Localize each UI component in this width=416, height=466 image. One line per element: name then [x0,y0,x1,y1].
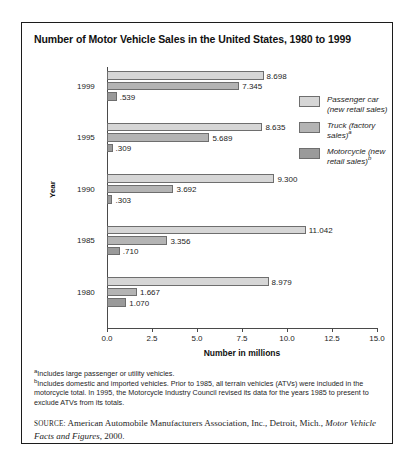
figure-panel: Number of Motor Vehicle Sales in the Uni… [21,22,393,444]
bar-value-label: .710 [123,247,139,256]
bar [107,92,117,101]
x-tick [242,328,243,332]
bar-value-label: 1.070 [129,299,149,308]
bar-value-label: 8.979 [272,278,292,287]
footnote-a-text: Includes large passenger or utility vehi… [37,369,174,378]
bar-value-label: 3.692 [176,185,196,194]
legend-label-line2: (new retail sales) [327,105,387,115]
x-axis-title: Number in millions [107,348,377,358]
x-tick [107,328,108,332]
bar [107,133,209,142]
legend-label: Motorcycle (newretail sales)b [327,147,385,166]
legend-footnote-marker: a [348,129,351,135]
footnote-b: bIncludes domestic and imported vehicles… [34,379,382,408]
y-axis-category-label: 1995 [77,133,95,142]
x-tick [332,328,333,332]
y-axis-title: Year [48,181,57,198]
x-tick-label: 2.5 [146,334,157,343]
source-text: American Automobile Manufacturers Associ… [66,418,325,428]
bar-value-label: 8.635 [265,123,285,132]
x-tick-label: 7.5 [236,334,247,343]
legend-swatch [299,96,320,107]
bar [107,185,173,194]
bar [107,288,137,297]
bar [107,123,262,132]
legend-label: Truck (factorysales)a [327,121,375,140]
legend-swatch [299,148,320,159]
x-tick [377,328,378,332]
footnotes: aIncludes large passenger or utility veh… [34,369,382,442]
source-year: , 2000. [100,431,125,441]
y-axis-category-label: 1985 [77,236,95,245]
legend-label-line1: Passenger car [327,95,387,105]
bar [107,298,126,307]
bar [107,174,274,183]
footnote-b-text: Includes domestic and imported vehicles.… [34,379,369,407]
bar [107,195,112,204]
bar-value-label: .539 [120,93,136,102]
x-tick-label: 0.0 [101,334,112,343]
bar [107,71,264,80]
y-axis-category-label: 1980 [77,287,95,296]
bar-value-label: 3.356 [170,237,190,246]
legend-label-line2: retail sales)b [327,157,385,167]
source-line: SOURCE: American Automobile Manufacturer… [34,417,382,442]
legend-swatch [299,122,320,133]
bar-value-label: 9.300 [277,175,297,184]
footnote-a: aIncludes large passenger or utility veh… [34,369,382,379]
bar-value-label: .303 [115,196,131,205]
bar-value-label: 7.345 [242,82,262,91]
bar [107,144,113,153]
bar [107,277,269,286]
x-tick [152,328,153,332]
x-tick-label: 12.5 [324,334,340,343]
bar [107,226,306,235]
legend-item: Passenger car(new retail sales) [299,95,394,114]
y-axis-category-label: 1990 [77,184,95,193]
bar-value-label: 1.667 [140,288,160,297]
legend-item: Truck (factorysales)a [299,121,394,140]
x-tick [197,328,198,332]
x-tick [287,328,288,332]
bar-value-label: 8.698 [267,72,287,81]
x-tick-label: 10.0 [279,334,295,343]
source-label: SOURCE: [34,420,66,428]
bar [107,247,120,256]
bar-value-label: .309 [116,144,132,153]
legend-label-line1: Motorcycle (new [327,147,385,157]
legend-item: Motorcycle (newretail sales)b [299,147,394,166]
y-axis-category-label: 1999 [77,81,95,90]
x-tick-label: 15.0 [369,334,385,343]
legend-label-line2: sales)a [327,131,375,141]
bar [107,82,239,91]
legend-label: Passenger car(new retail sales) [327,95,387,114]
bar-value-label: 11.042 [309,226,333,235]
bar-value-label: 5.689 [212,134,232,143]
x-tick-label: 5.0 [191,334,202,343]
legend-footnote-marker: b [368,155,371,161]
bar [107,236,167,245]
chart-legend: Passenger car(new retail sales)Truck (fa… [299,95,394,174]
